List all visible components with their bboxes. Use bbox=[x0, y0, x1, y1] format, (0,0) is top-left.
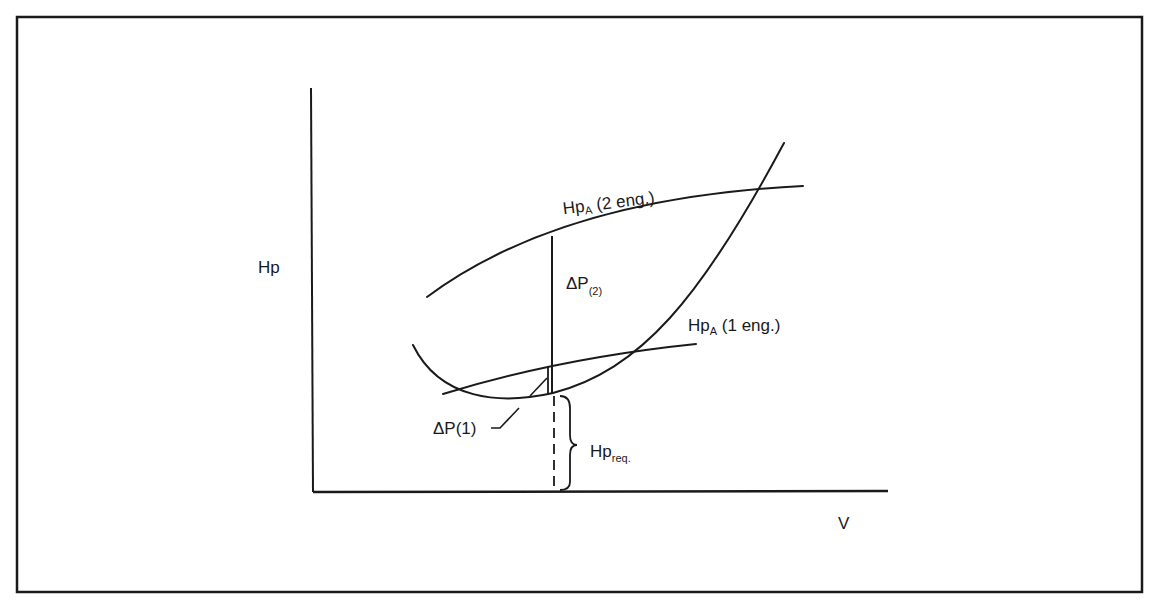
figure-frame bbox=[17, 17, 1142, 592]
y-axis-label: Hp bbox=[258, 258, 280, 277]
power-curves-diagram: Hp V HpA (2 eng.) ΔP(2) HpA (1 eng.) ΔP(… bbox=[0, 0, 1160, 608]
x-axis bbox=[313, 491, 888, 492]
y-axis bbox=[311, 88, 313, 492]
hp-required-label: Hpreq. bbox=[590, 442, 631, 464]
delta-p1-label: ΔP(1) bbox=[433, 419, 476, 438]
hp-available-1-engine-curve bbox=[443, 344, 696, 394]
hp-available-1-engine-label: HpA (1 eng.) bbox=[688, 316, 780, 337]
x-axis-label: V bbox=[838, 514, 850, 533]
delta-p1-leader-upper bbox=[530, 378, 547, 396]
delta-p2-label: ΔP(2) bbox=[566, 274, 602, 297]
delta-p1-leader-lower bbox=[491, 408, 519, 428]
hp-req-brace bbox=[560, 396, 577, 490]
